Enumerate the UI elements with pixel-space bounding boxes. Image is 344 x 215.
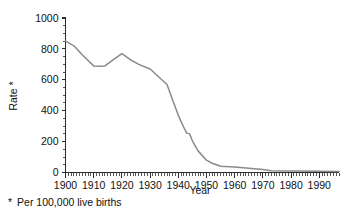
x-tick-label: 1950 [195, 179, 219, 191]
footnote: *Per 100,000 live births [8, 196, 122, 208]
y-tick-label: 200 [41, 135, 59, 147]
x-tick-label: 1960 [223, 179, 247, 191]
x-tick-label: 1940 [167, 179, 191, 191]
x-tick-label: 1980 [279, 179, 303, 191]
y-tick-label: 800 [41, 43, 59, 55]
data-series-group [66, 41, 340, 171]
y-tick-label: 1000 [35, 12, 59, 24]
x-tick-label: 1920 [110, 179, 134, 191]
y-tick-label: 0 [53, 166, 59, 178]
y-tick-label: 400 [41, 104, 59, 116]
x-tick-label: 1900 [54, 179, 78, 191]
y-axis-title: Rate * [7, 81, 19, 110]
data-line [66, 41, 340, 171]
y-tick-label: 600 [41, 73, 59, 85]
x-tick-label: 1930 [138, 179, 162, 191]
chart-figure: Rate * Year 02004006008001000 1900191019… [0, 0, 344, 215]
x-tick-label: 1910 [82, 179, 106, 191]
footnote-asterisk: * [8, 196, 12, 208]
x-tick-label: 1990 [308, 179, 332, 191]
x-axis-ticks [66, 173, 340, 179]
footnote-text: Per 100,000 live births [17, 196, 121, 208]
line-chart-svg: Rate * Year 02004006008001000 1900191019… [0, 0, 344, 215]
y-axis-tick-labels: 02004006008001000 [35, 12, 59, 179]
x-tick-label: 1970 [251, 179, 275, 191]
